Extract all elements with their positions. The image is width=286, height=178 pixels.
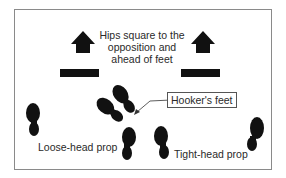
loose-head-foot-left-icon [26, 103, 40, 136]
up-arrow-right-icon [191, 31, 215, 53]
callout-arrow-icon [134, 100, 171, 115]
hip-bar-left [60, 69, 99, 77]
hookers-feet-label: Hooker's feet [167, 92, 237, 108]
tight-head-prop-label: Tight-head prop [174, 148, 248, 160]
hip-bar-right [181, 69, 220, 77]
title-line-1: Hips square to the [92, 29, 192, 41]
loose-head-foot-right-icon [122, 127, 136, 160]
title-line-2: opposition and [92, 41, 192, 53]
tight-head-foot-right-icon [247, 117, 264, 151]
loose-head-prop-label: Loose-head prop [38, 141, 117, 153]
tight-head-foot-left-icon [154, 126, 169, 159]
title-line-3: ahead of feet [92, 53, 192, 65]
